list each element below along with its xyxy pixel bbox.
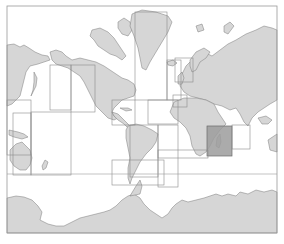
land-arctic-islands (90, 28, 126, 60)
land-central-america (112, 112, 130, 128)
world-map[interactable] (0, 0, 284, 244)
region-indian-ocean-west[interactable] (207, 126, 232, 156)
land-new-zealand (42, 160, 48, 170)
land-asia-east (7, 44, 50, 106)
land-novaya-zemlya (224, 22, 234, 34)
land-antarctic-peninsula (130, 180, 142, 196)
land-iceland (167, 60, 177, 66)
region-indian-ocean-central[interactable] (232, 125, 250, 149)
land-south-america (126, 124, 158, 184)
map-canvas[interactable] (0, 0, 284, 244)
region-south-pacific[interactable] (31, 112, 71, 175)
region-north-pacific-central[interactable] (50, 65, 71, 110)
land-antarctica (7, 190, 277, 233)
land-greenland (130, 10, 172, 70)
land-japan (31, 72, 37, 96)
land-baffin (118, 18, 132, 36)
land-australia-west-edge (268, 134, 277, 152)
land-se-asia (258, 116, 272, 124)
land-svalbard (196, 24, 204, 32)
land-indonesia (9, 130, 28, 139)
land-cuba (120, 108, 132, 111)
region-south-atlantic[interactable] (158, 125, 178, 187)
landmasses (7, 10, 277, 233)
